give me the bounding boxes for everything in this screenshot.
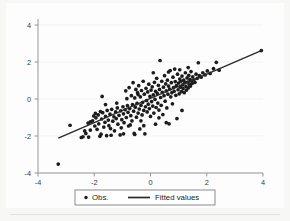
scatter-point [162,94,166,98]
scatter-point [110,108,114,112]
scatter-point [149,88,153,92]
scatter-point [118,133,122,137]
scatter-point [146,90,150,94]
scatter-point [114,117,118,121]
scatter-point [117,113,121,117]
legend-box: Obs. Fitted values [75,190,215,205]
scatter-point [138,127,142,131]
scatter-point [96,113,100,117]
scatter-point [160,79,164,83]
scatter-point [136,111,140,115]
scatter-point [124,89,128,93]
y-tick-label: 2 [27,58,31,67]
scatter-point [140,113,144,117]
scatter-point [137,107,141,111]
scatter-point [157,108,161,112]
scatter-point [120,118,124,122]
scatter-point [104,103,108,107]
page-rule-divider [10,214,280,215]
scatter-point [128,123,132,127]
scatter-point [164,121,168,125]
legend-label-fitted: Fitted values [155,193,199,202]
scatter-point [133,96,137,100]
scatter-point [125,97,129,101]
scatter-point [99,132,103,136]
scatter-point [157,83,161,87]
scatter-point [180,74,184,78]
scatter-point [105,134,109,138]
scatter-point [148,107,152,111]
scatter-point [136,93,140,97]
scatter-point [106,118,110,122]
scatter-point [103,120,107,124]
scatter-point [109,133,113,137]
x-tick-label: 4 [261,178,265,187]
scatter-point [139,119,143,123]
scatter-point [153,98,157,102]
y-tick-label: 4 [27,21,31,30]
scatter-point [121,105,125,109]
scatter-point [150,100,154,104]
scatter-point [156,101,160,105]
scatter-point [84,132,88,136]
scatter-point [155,76,159,80]
scatter-point [161,113,165,117]
scatter-point [93,124,97,128]
scatter-point [159,103,163,107]
scatter-point [130,94,134,98]
scatter-point [132,109,136,113]
scatter-point [115,106,119,110]
scatter-point [180,109,184,113]
figure-container: 4 2 0 -2 -4 -4 -2 0 2 4 [0,0,290,221]
scatter-point [143,132,147,136]
scatter-point [173,67,177,71]
scatter-point [153,81,157,85]
x-tick-label: -4 [35,178,42,187]
scatter-point [100,95,104,99]
scatter-point [157,116,161,120]
scatter-point [124,116,128,120]
scatter-point [175,117,179,121]
scatter-point [186,66,190,70]
scatter-point [193,81,197,85]
scatter-point [178,68,182,72]
scatter-point [130,119,134,123]
y-tick-label: -4 [24,169,31,178]
scatter-point [137,84,141,88]
scatter-point [144,105,148,109]
scatter-point [142,92,146,96]
legend-label-obs: Obs. [92,193,108,202]
scatter-point [113,129,117,133]
scatter-point [131,81,135,85]
x-tick-label: 2 [205,178,209,187]
scatter-point [163,74,167,78]
scatter-point [146,102,150,106]
scatter-point [116,122,120,126]
scatter-point [162,85,166,89]
scatter-point [158,88,162,92]
scatter-point [68,123,72,127]
scatter-point [97,122,101,126]
scatter-point [111,119,115,123]
scatter-point [147,82,151,86]
scatter-point [152,111,156,115]
scatter-point [134,88,138,92]
scatter-point [159,96,163,100]
scatter-point [187,73,191,77]
scatter-point [94,116,98,120]
scatter-point [167,70,171,74]
scatter-point [154,122,158,126]
scatter-point [101,111,105,115]
scatter-point [122,121,126,125]
scatter-point [165,106,169,110]
scatter-point [95,127,99,131]
x-tick-label: -2 [91,178,98,187]
scatter-point [150,85,154,89]
y-tick-label: -2 [24,132,31,141]
scatter-point [172,89,176,93]
scatter-point [184,71,188,75]
scatter-point [144,86,148,90]
plot-card: 4 2 0 -2 -4 -4 -2 0 2 4 [6,3,284,208]
scatter-point [151,71,155,75]
scatter-point [133,133,137,137]
